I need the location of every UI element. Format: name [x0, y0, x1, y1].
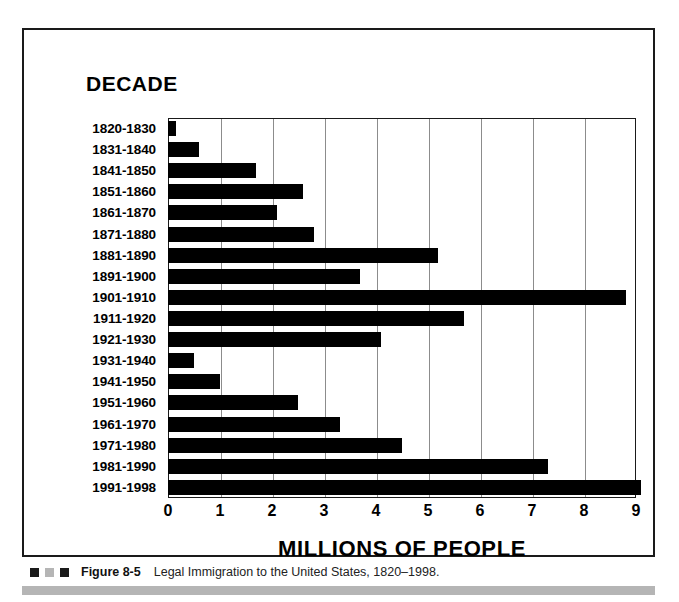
- bar-row: [168, 266, 636, 287]
- x-tick-label-3: 3: [309, 502, 339, 520]
- x-tick-label-7: 7: [517, 502, 547, 520]
- x-tick-label-9: 9: [621, 502, 651, 520]
- bar-row: [168, 308, 636, 329]
- bar-row: [168, 181, 636, 202]
- category-label-1911-1920: 1911-1920: [24, 308, 164, 329]
- bar-1891-1900: [168, 269, 360, 284]
- bar-row: [168, 350, 636, 371]
- x-tick-label-0: 0: [153, 502, 183, 520]
- category-label-1891-1900: 1891-1900: [24, 266, 164, 287]
- bottom-rule: [22, 586, 655, 595]
- category-label-1961-1970: 1961-1970: [24, 414, 164, 435]
- figure-caption: Figure 8-5 Legal Immigration to the Unit…: [30, 563, 655, 581]
- category-label-1931-1940: 1931-1940: [24, 350, 164, 371]
- bar-row: [168, 160, 636, 181]
- bar-row: [168, 118, 636, 139]
- bar-row: [168, 414, 636, 435]
- bar-1841-1850: [168, 163, 256, 178]
- caption-marker-square-1: [30, 568, 39, 577]
- category-label-1881-1890: 1881-1890: [24, 245, 164, 266]
- category-label-1820-1830: 1820-1830: [24, 118, 164, 139]
- chart-x-axis-ticks: 0123456789: [168, 502, 636, 526]
- bar-row: [168, 371, 636, 392]
- bar-row: [168, 435, 636, 456]
- bar-row: [168, 139, 636, 160]
- category-label-1951-1960: 1951-1960: [24, 392, 164, 413]
- category-label-1851-1860: 1851-1860: [24, 181, 164, 202]
- category-label-1841-1850: 1841-1850: [24, 160, 164, 181]
- x-tick-label-4: 4: [361, 502, 391, 520]
- figure-frame: DECADE 1820-18301831-18401841-18501851-1…: [22, 28, 655, 557]
- category-label-1871-1880: 1871-1880: [24, 224, 164, 245]
- chart-x-axis-title: MILLIONS OF PEOPLE: [168, 536, 636, 562]
- x-tick-label-1: 1: [205, 502, 235, 520]
- x-tick-label-2: 2: [257, 502, 287, 520]
- bar-row: [168, 477, 636, 498]
- category-label-1991-1998: 1991-1998: [24, 477, 164, 498]
- bar-row: [168, 456, 636, 477]
- category-label-1861-1870: 1861-1870: [24, 202, 164, 223]
- category-label-1941-1950: 1941-1950: [24, 371, 164, 392]
- category-label-1971-1980: 1971-1980: [24, 435, 164, 456]
- bar-1971-1980: [168, 438, 402, 453]
- bar-row: [168, 329, 636, 350]
- bar-1951-1960: [168, 395, 298, 410]
- caption-description: Legal Immigration to the United States, …: [154, 565, 440, 579]
- bar-1851-1860: [168, 184, 303, 199]
- caption-figure-number: Figure 8-5: [81, 565, 141, 579]
- caption-marker-square-2: [45, 568, 54, 577]
- category-label-1921-1930: 1921-1930: [24, 329, 164, 350]
- bar-1820-1830: [168, 121, 176, 136]
- bar-1881-1890: [168, 248, 438, 263]
- bar-1911-1920: [168, 311, 464, 326]
- bar-1961-1970: [168, 417, 340, 432]
- bar-1871-1880: [168, 227, 314, 242]
- bar-1921-1930: [168, 332, 381, 347]
- bar-row: [168, 287, 636, 308]
- bar-1941-1950: [168, 374, 220, 389]
- bar-1901-1910: [168, 290, 626, 305]
- bar-1991-1998: [168, 480, 641, 495]
- caption-marker-square-3: [60, 568, 69, 577]
- bar-row: [168, 224, 636, 245]
- bar-1981-1990: [168, 459, 548, 474]
- category-label-1901-1910: 1901-1910: [24, 287, 164, 308]
- x-tick-label-6: 6: [465, 502, 495, 520]
- decade-heading: DECADE: [86, 72, 178, 96]
- bar-row: [168, 245, 636, 266]
- x-tick-label-8: 8: [569, 502, 599, 520]
- bar-row: [168, 202, 636, 223]
- chart-category-axis: 1820-18301831-18401841-18501851-18601861…: [24, 118, 164, 498]
- x-tick-label-5: 5: [413, 502, 443, 520]
- bar-1831-1840: [168, 142, 199, 157]
- category-label-1981-1990: 1981-1990: [24, 456, 164, 477]
- bar-1931-1940: [168, 353, 194, 368]
- bar-row: [168, 392, 636, 413]
- bar-1861-1870: [168, 205, 277, 220]
- chart-bars: [168, 118, 636, 498]
- category-label-1831-1840: 1831-1840: [24, 139, 164, 160]
